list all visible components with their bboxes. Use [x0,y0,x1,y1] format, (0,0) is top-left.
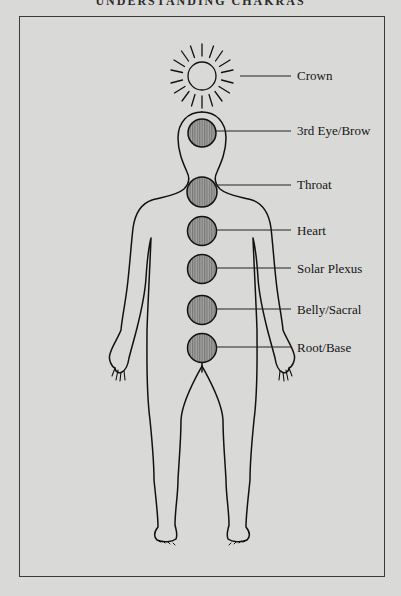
chakra-throat-circle [187,177,217,207]
sun-icon [171,44,233,108]
chakra-heart-circle [188,217,217,246]
label-root-base: Root/Base [297,341,351,355]
chakra-root-circle [188,334,217,363]
chakra-solar-plexus-circle [188,255,217,284]
chakra-sacral-circle [188,296,217,325]
label-throat: Throat [297,178,332,192]
chakra-body-diagram [0,0,401,596]
label-heart: Heart [297,224,326,238]
chakra-brow-circle [188,119,216,147]
label-solar-plexus: Solar Plexus [297,262,362,276]
label-crown: Crown [297,69,332,83]
label-third-eye-brow: 3rd Eye/Brow [297,124,370,138]
label-belly-sacral: Belly/Sacral [297,303,361,317]
